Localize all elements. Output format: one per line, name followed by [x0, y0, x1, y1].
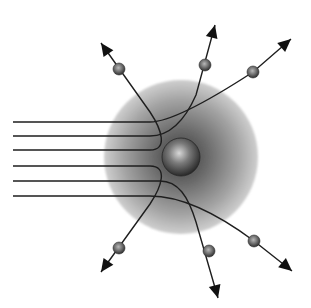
- scattering-diagram: [0, 0, 311, 308]
- particle: [199, 59, 211, 71]
- arrowhead-icon: [96, 40, 113, 58]
- particle: [113, 63, 125, 75]
- arrowhead-icon: [278, 258, 296, 276]
- particle: [203, 245, 215, 257]
- arrowhead-icon: [206, 23, 221, 39]
- particle: [247, 66, 259, 78]
- particle: [113, 242, 125, 254]
- arrowhead-icon: [209, 284, 224, 300]
- nucleus: [162, 138, 200, 176]
- arrowhead-icon: [96, 258, 113, 276]
- particle: [248, 235, 260, 247]
